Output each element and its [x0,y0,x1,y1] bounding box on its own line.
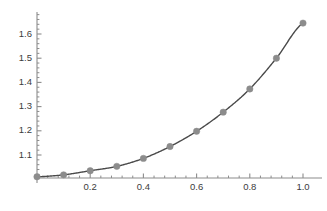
y-tick-label: 1.2 [19,124,32,135]
y-tick-label: 1.3 [19,100,32,111]
data-point-marker [140,155,146,161]
data-point-marker [300,20,306,26]
chart-canvas: 0.20.40.60.81.01.11.21.31.41.51.6 [0,0,327,211]
y-tick-label: 1.5 [19,52,32,63]
data-point-marker [114,163,120,169]
data-point-marker [220,109,226,115]
x-tick-label: 1.0 [296,181,309,192]
y-tick-label: 1.1 [19,149,32,160]
y-tick-label: 1.4 [19,76,32,87]
data-point-marker [193,128,199,134]
data-point-marker [273,55,279,61]
data-point-marker [167,143,173,149]
x-tick-label: 0.2 [84,181,97,192]
data-point-marker [87,168,93,174]
chart-plot-area: 0.20.40.60.81.01.11.21.31.41.51.6 [0,0,327,211]
series-line [37,23,303,177]
y-tick-label: 1.6 [19,28,32,39]
x-tick-label: 0.8 [243,181,256,192]
data-point-marker [60,172,66,178]
data-point-marker [247,86,253,92]
x-tick-label: 0.6 [190,181,203,192]
x-tick-label: 0.4 [137,181,150,192]
data-point-marker [34,174,40,180]
